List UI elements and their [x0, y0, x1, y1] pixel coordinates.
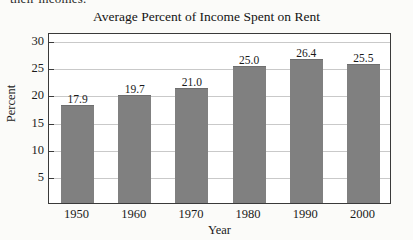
x-axis-title: Year	[48, 223, 391, 238]
bar-value-label: 19.7	[106, 83, 163, 95]
bar-value-label: 25.5	[335, 52, 392, 64]
cropped-body-text: their incomes.	[10, 0, 86, 7]
bar-value-label: 17.9	[49, 93, 106, 105]
bar-slot: 17.9	[49, 34, 106, 203]
y-tick-label: 25	[4, 62, 44, 75]
x-tick-label: 1960	[105, 207, 162, 222]
bar-slot: 19.7	[106, 34, 163, 203]
y-tick-label: 10	[4, 144, 44, 157]
x-tick-label: 1980	[220, 207, 277, 222]
y-tick-label: 20	[4, 89, 44, 102]
y-tick-label: 30	[4, 35, 44, 48]
bar	[347, 64, 380, 203]
chart-title: Average Percent of Income Spent on Rent	[0, 9, 413, 25]
bar-slot: 25.5	[335, 34, 392, 203]
bar-value-label: 25.0	[221, 54, 278, 66]
bar-slot: 21.0	[163, 34, 220, 203]
bar	[61, 105, 94, 203]
bar	[233, 66, 266, 203]
y-tick-label: 15	[4, 117, 44, 130]
bar-value-label: 21.0	[163, 76, 220, 88]
bar-value-label: 26.4	[278, 47, 335, 59]
bar-slot: 26.4	[278, 34, 335, 203]
bar	[118, 95, 151, 203]
bar-series: 17.919.721.025.026.425.5	[49, 34, 390, 203]
plot-area: 17.919.721.025.026.425.5	[48, 33, 391, 204]
chart-page: their incomes. Average Percent of Income…	[0, 0, 413, 240]
x-tick-label: 1950	[48, 207, 105, 222]
y-tick-label: 5	[4, 171, 44, 184]
bar-slot: 25.0	[221, 34, 278, 203]
x-tick-label: 1990	[277, 207, 334, 222]
x-tick-label: 1970	[162, 207, 219, 222]
bar	[290, 59, 323, 203]
bar	[175, 88, 208, 203]
x-tick-label: 2000	[334, 207, 391, 222]
